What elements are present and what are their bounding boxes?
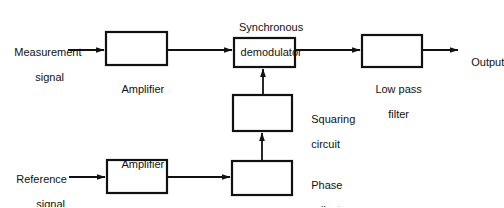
block-label-amplifier-top-text: Amplifier	[121, 83, 164, 95]
io-label-reference-signal-line2: signal	[36, 198, 65, 208]
block-label-amplifier-top: Amplifier	[96, 70, 178, 108]
io-label-reference-signal: Reference signal	[4, 160, 65, 207]
block-label-phase-adjuster-line2: adjuster	[311, 204, 350, 208]
block-label-synchronous-demodulator-line2: demodulator	[241, 46, 302, 58]
io-label-measurement-signal-line2: signal	[35, 71, 64, 83]
block-label-squaring-circuit-line1: Squaring	[311, 113, 355, 125]
block-phase-adjuster	[232, 161, 292, 195]
block-label-phase-adjuster-line1: Phase	[311, 179, 342, 191]
block-label-squaring-circuit-line2: circuit	[311, 138, 340, 150]
block-label-low-pass-filter-line1: Low pass	[375, 83, 421, 95]
io-label-reference-signal-line1: Reference	[16, 173, 67, 185]
block-label-amplifier-bottom: Amplifier	[96, 145, 178, 183]
io-label-measurement-signal: Measurement signal	[2, 33, 64, 96]
block-low-pass-filter	[362, 35, 422, 67]
io-label-measurement-signal-line1: Measurement	[14, 46, 81, 58]
block-label-amplifier-bottom-text: Amplifier	[121, 158, 164, 170]
io-label-output: Output	[459, 43, 504, 81]
io-label-output-text: Output	[471, 56, 504, 68]
block-label-squaring-circuit: Squaring circuit	[299, 100, 369, 163]
block-amplifier-top	[106, 32, 167, 65]
block-label-low-pass-filter-line2: filter	[388, 108, 409, 120]
block-label-phase-adjuster: Phase adjuster	[299, 166, 369, 207]
block-label-synchronous-demodulator-line1: Synchronous	[239, 21, 303, 33]
block-label-synchronous-demodulator: Synchronous demodulator	[218, 8, 312, 71]
block-diagram-canvas: Measurement signal Amplifier Synchronous…	[0, 0, 504, 207]
block-squaring-circuit	[233, 95, 292, 131]
